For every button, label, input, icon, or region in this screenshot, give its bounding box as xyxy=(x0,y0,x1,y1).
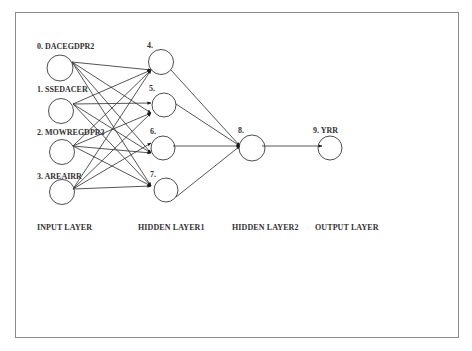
edge-0-to-4 xyxy=(72,62,151,70)
layer-label-input: INPUT LAYER xyxy=(37,224,92,232)
node-9 xyxy=(318,136,342,160)
layer-label-output: OUTPUT LAYER xyxy=(315,224,379,232)
nodes xyxy=(47,50,342,205)
edge-4-to-8 xyxy=(171,70,240,146)
node-6 xyxy=(151,136,175,160)
node-7 xyxy=(154,178,178,202)
node-label-5: 5. xyxy=(149,85,155,93)
node-1 xyxy=(49,99,74,124)
edges xyxy=(72,62,322,197)
edge-0-to-6 xyxy=(72,62,151,153)
node-label-1: 1. SSEDACER xyxy=(37,86,88,94)
node-2 xyxy=(50,140,75,165)
node-label-2: 2. MOWREGDPR3 xyxy=(37,129,105,137)
edge-1-to-5 xyxy=(73,103,151,104)
node-label-0: 0. DACEGDPR2 xyxy=(37,43,94,51)
node-label-6: 6. xyxy=(150,128,156,136)
node-label-3: 3. AREAIRR xyxy=(37,173,82,181)
node-label-7: 7. xyxy=(150,171,156,179)
node-label-4: 4. xyxy=(147,42,153,50)
node-5 xyxy=(152,93,176,117)
node-label-9: 9. YRR xyxy=(313,127,338,135)
node-4 xyxy=(149,50,174,75)
node-3 xyxy=(50,180,75,205)
edge-1-to-7 xyxy=(73,104,151,186)
node-0 xyxy=(47,55,73,81)
node-label-8: 8. xyxy=(238,127,244,135)
edge-7-to-8 xyxy=(176,146,240,197)
layer-label-hidden2: HIDDEN LAYER2 xyxy=(232,224,299,232)
node-8 xyxy=(239,135,265,161)
edge-3-to-7 xyxy=(73,186,151,189)
layer-label-hidden1: HIDDEN LAYER1 xyxy=(138,224,205,232)
